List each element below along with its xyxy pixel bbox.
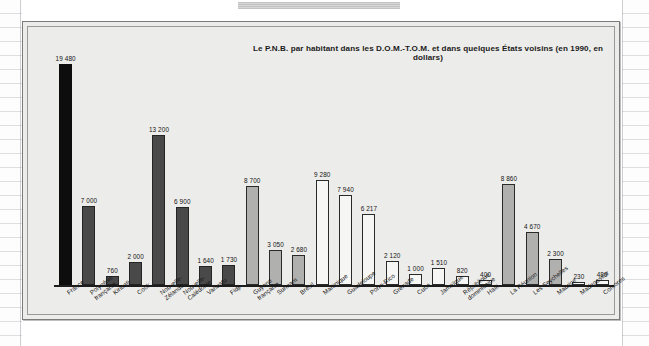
- bar-value-label: 7 000: [81, 198, 98, 204]
- bar: [246, 186, 259, 285]
- bar-value-label: 1 000: [407, 266, 424, 272]
- bar: [129, 262, 142, 285]
- bar: [59, 64, 72, 285]
- bar-value-label: 3 050: [267, 242, 284, 248]
- x-label-slot: Polynésie française: [77, 289, 100, 329]
- x-label-slot: République dominicaine: [451, 289, 474, 329]
- bar-slot: 19 480: [54, 55, 77, 285]
- bar-slot: 480: [591, 55, 614, 285]
- bar-slot: 6 900: [171, 55, 194, 285]
- left-margin-rule: [20, 0, 21, 346]
- bar-slot: 2 120: [381, 55, 404, 285]
- bar-series: 19 4807 0007602 00013 2006 9001 6401 730…: [54, 55, 614, 285]
- x-label-slot: Grenade: [381, 289, 404, 329]
- x-label-slot: Cook: [124, 289, 147, 329]
- x-label-slot: Les Seychelles: [521, 289, 544, 329]
- bar-slot: 2 680: [287, 55, 310, 285]
- x-label-slot: Cuba: [404, 289, 427, 329]
- x-label-slot: Jamaïque: [427, 289, 450, 329]
- chart-inner-frame: Le P.N.B. par habitant dans les D.O.M.-T…: [27, 26, 615, 315]
- bar-slot: 1 510: [427, 55, 450, 285]
- right-margin-rule: [622, 0, 623, 346]
- bar-slot: 4 670: [521, 55, 544, 285]
- bar: [152, 135, 165, 285]
- x-label-slot: Guyane française: [241, 289, 264, 329]
- bar-value-label: 2 300: [547, 251, 564, 257]
- bar-slot: 3 050: [264, 55, 287, 285]
- bar-slot: 760: [101, 55, 124, 285]
- bar-slot: 6 217: [357, 55, 380, 285]
- bar: [316, 180, 329, 285]
- bar-value-label: 7 940: [337, 187, 354, 193]
- x-label-slot: La Réunion: [497, 289, 520, 329]
- x-label-slot: Nouvelle- Calédonie: [171, 289, 194, 329]
- x-label-slot: Guadeloupe: [334, 289, 357, 329]
- bar-slot: 400: [474, 55, 497, 285]
- bar-slot: 7 000: [77, 55, 100, 285]
- bar: [176, 207, 189, 285]
- bar-value-label: 1 510: [431, 260, 448, 266]
- bar-slot: 7 940: [334, 55, 357, 285]
- bar: [82, 206, 95, 285]
- bar-value-label: 1 730: [221, 257, 238, 263]
- bar-value-label: 9 280: [314, 172, 331, 178]
- x-label-slot: France: [54, 289, 77, 329]
- bar-value-label: 2 120: [384, 253, 401, 259]
- x-axis-labels: FrancePolynésie françaiseKiribatiCookNou…: [54, 289, 614, 329]
- bar-value-label: 19 480: [56, 56, 76, 62]
- bar-value-label: 1 640: [197, 258, 214, 264]
- x-label-slot: Porto-Rico: [357, 289, 380, 329]
- bar-value-label: 13 200: [149, 127, 169, 133]
- scan-artifact-strip: [238, 2, 400, 9]
- bar-value-label: 8 700: [244, 178, 261, 184]
- bar-slot: 1 000: [404, 55, 427, 285]
- x-label-slot: Brésil: [287, 289, 310, 329]
- x-label-slot: Fidji: [217, 289, 240, 329]
- x-label-slot: Kiribati: [101, 289, 124, 329]
- x-label-slot: Surinam: [264, 289, 287, 329]
- bar-slot: 1 640: [194, 55, 217, 285]
- bar-slot: 1 730: [217, 55, 240, 285]
- bar: [339, 195, 352, 285]
- bar-value-label: 6 900: [174, 199, 191, 205]
- x-label-slot: Comores: [591, 289, 614, 329]
- bar-value-label: 8 860: [501, 176, 518, 182]
- x-label-slot: Vanuatu: [194, 289, 217, 329]
- x-label-slot: Maurice: [544, 289, 567, 329]
- bar-value-label: 4 670: [524, 224, 541, 230]
- bar-slot: 230: [567, 55, 590, 285]
- plot-area: 19 4807 0007602 00013 2006 9001 6401 730…: [54, 55, 614, 287]
- bar-value-label: 2 680: [291, 247, 308, 253]
- bar-slot: 2 300: [544, 55, 567, 285]
- bar-slot: 8 700: [241, 55, 264, 285]
- bar-value-label: 2 000: [127, 254, 144, 260]
- chart-figure: Le P.N.B. par habitant dans les D.O.M.-T…: [22, 21, 620, 320]
- bar-value-label: 6 217: [361, 206, 378, 212]
- x-label-slot: Madagascar: [567, 289, 590, 329]
- bar-slot: 8 860: [497, 55, 520, 285]
- x-label-slot: Nouvelle- Zélande: [147, 289, 170, 329]
- bar-slot: 2 000: [124, 55, 147, 285]
- bar: [502, 184, 515, 285]
- bar-slot: 9 280: [311, 55, 334, 285]
- bar: [432, 268, 445, 285]
- bar-slot: 13 200: [147, 55, 170, 285]
- bar-slot: 820: [451, 55, 474, 285]
- x-label-slot: Martinique: [311, 289, 334, 329]
- x-label-slot: Haïti: [474, 289, 497, 329]
